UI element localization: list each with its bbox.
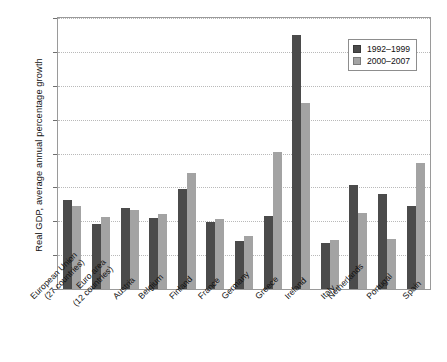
y-tick-mark <box>53 221 57 222</box>
y-tick-mark <box>53 255 57 256</box>
y-tick-mark <box>53 187 57 188</box>
bar-group <box>178 18 196 289</box>
legend-label: 2000–2007 <box>367 56 410 66</box>
bar-group <box>92 18 110 289</box>
legend-label: 1992–1999 <box>367 44 410 54</box>
bar <box>407 206 416 289</box>
bar-group <box>235 18 253 289</box>
bar <box>187 173 196 289</box>
y-tick-mark <box>53 18 57 19</box>
legend-item: 1992–1999 <box>353 43 410 55</box>
y-tick-mark <box>53 52 57 53</box>
x-axis-labels: European Union(27 countries)Euro area(12… <box>0 292 447 362</box>
bar-group <box>321 18 339 289</box>
bar-group <box>206 18 224 289</box>
bar-group <box>149 18 167 289</box>
bar <box>321 243 330 289</box>
y-tick-mark <box>53 86 57 87</box>
bar-group <box>264 18 282 289</box>
bar <box>301 103 310 289</box>
bar <box>416 163 425 289</box>
legend: 1992–1999 2000–2007 <box>348 39 417 71</box>
bar <box>292 35 301 289</box>
legend-swatch-icon <box>353 57 361 65</box>
bar-group <box>63 18 81 289</box>
y-axis-title: Real GDP, average annual percentage grow… <box>34 20 44 290</box>
bar-group <box>121 18 139 289</box>
chart-root: Real GDP, average annual percentage grow… <box>0 0 447 362</box>
y-tick-mark <box>53 154 57 155</box>
bar-group <box>292 18 310 289</box>
legend-swatch-icon <box>353 45 361 53</box>
legend-item: 2000–2007 <box>353 55 410 67</box>
y-tick-mark <box>53 120 57 121</box>
bar <box>358 213 367 289</box>
bar <box>273 152 282 289</box>
